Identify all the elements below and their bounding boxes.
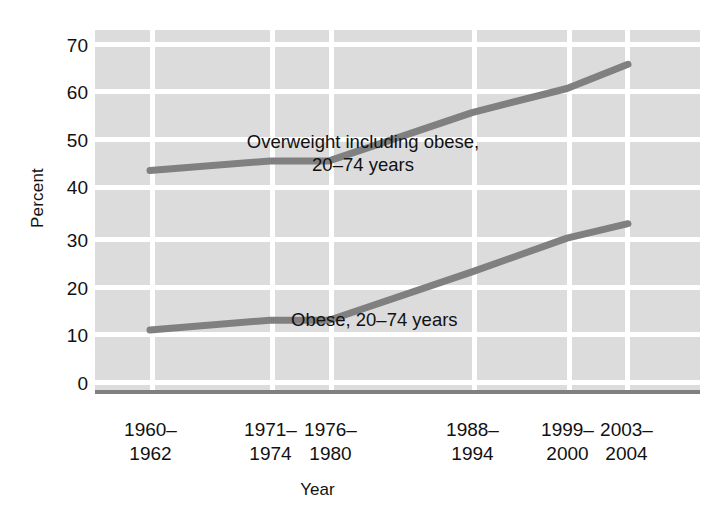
y-tick-label: 10	[46, 326, 88, 345]
y-tick-label: 50	[46, 131, 88, 150]
x-tick-label: 2003– 2004	[584, 418, 669, 466]
y-tick-label: 40	[46, 178, 88, 197]
x-axis-title: Year	[0, 480, 713, 500]
x-tick-label: 1988– 1994	[430, 418, 515, 466]
x-axis-line	[95, 390, 700, 394]
x-tick-label: 1976– 1980	[288, 418, 373, 466]
y-tick-label: 60	[46, 83, 88, 102]
y-tick-label: 70	[46, 36, 88, 55]
chart-container: Percent 70 60 50 40 30 20 10 0	[0, 0, 713, 512]
y-tick-label: 0	[46, 374, 88, 393]
x-axis-title-text: Year	[300, 480, 334, 500]
annotation-obese-label: Obese, 20–74 years	[291, 308, 511, 331]
annotation-overweight-label: Overweight including obese, 20–74 years	[238, 130, 488, 176]
y-tick-label: 30	[46, 231, 88, 250]
y-tick-label: 20	[46, 279, 88, 298]
x-tick-label: 1960– 1962	[108, 418, 193, 466]
plot-area: Overweight including obese, 20–74 years …	[95, 30, 700, 392]
series-layer	[95, 30, 700, 392]
y-axis-tick-labels: 70 60 50 40 30 20 10 0	[42, 0, 88, 512]
